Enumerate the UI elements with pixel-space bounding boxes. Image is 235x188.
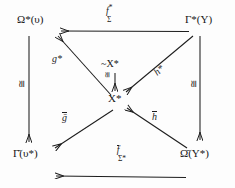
arrow-top-horizontal xyxy=(61,31,189,32)
edge-label-center-vertical: ≅ xyxy=(104,71,112,78)
node-bottom-right: Ω̄(Υ*) xyxy=(180,148,209,159)
edge-label-bottom: f Σ* xyxy=(110,146,126,162)
node-top-left: Ω*(υ) xyxy=(17,14,43,25)
diagram-canvas: Ω*(υ) Γ*(Υ) ~X* X* Γ̄(υ*) Ω̄(Υ*) f* Σ f … xyxy=(0,0,235,188)
edge-label-g-star: g* xyxy=(52,54,62,64)
edge-label-top: f* Σ xyxy=(106,7,112,23)
arrow-bottom-horizontal xyxy=(56,176,186,178)
node-top-right: Γ*(Υ) xyxy=(185,14,212,25)
edge-label-h-bar: h̄ xyxy=(152,112,157,122)
node-center: X* xyxy=(108,93,121,104)
edge-label-bottom-sub: Σ* xyxy=(118,155,126,163)
node-bottom-left: Γ̄(υ*) xyxy=(13,148,38,159)
node-center-upper: ~X* xyxy=(101,59,119,69)
edge-label-left-vertical: ≅ xyxy=(17,80,27,88)
edge-label-right-vertical: ≅ xyxy=(189,80,199,88)
edge-label-top-sub: Σ xyxy=(106,16,112,24)
arrow-h-bar-diagonal xyxy=(127,108,187,148)
edge-label-g-bar: ḡ xyxy=(62,113,67,123)
